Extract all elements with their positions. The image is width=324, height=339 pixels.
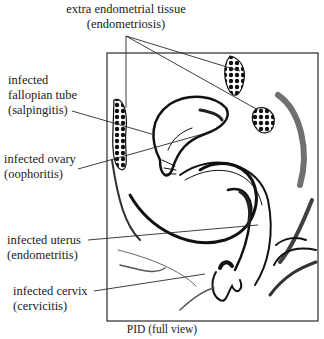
label-cervicitis: infected cervix(cervicitis) [13,284,88,314]
lesion-top-right [225,56,245,95]
label-oophoritis: infected ovary(oophoritis) [4,152,76,182]
label-text-line: (endometriosis) [36,17,216,32]
label-text-line: infected uterus [7,233,81,248]
label-text-line: infected ovary [4,152,76,167]
label-text-line: (oophoritis) [4,167,76,182]
label-salpingitis: infectedfallopian tube(salpingitis) [8,73,77,118]
leader-line-oophoritis [78,134,203,169]
label-endometriosis: extra endometrial tissue(endometriosis) [36,2,216,32]
label-text-line: fallopian tube [8,88,77,103]
label-text-line: infected cervix [13,284,88,299]
label-text-line: (salpingitis) [8,103,77,118]
lesion-mid-right [252,108,274,133]
label-text-line: infected [8,73,77,88]
lesion-left [113,99,127,170]
figure-caption: PID (full view) [0,323,324,335]
label-text-line: (cervicitis) [13,299,88,314]
anatomy-drawing [112,95,316,310]
leader-line-cervicitis [94,274,205,291]
label-text-line: (endometritis) [7,248,81,263]
cervix [213,272,242,301]
label-text-line: extra endometrial tissue [36,2,216,17]
label-endometritis: infected uterus(endometritis) [7,233,81,263]
